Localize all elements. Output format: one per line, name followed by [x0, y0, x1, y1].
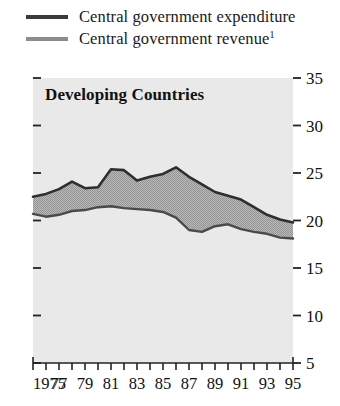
x-axis-label: 79 — [77, 374, 94, 393]
x-axis-label: 87 — [181, 374, 198, 393]
legend-item-revenue: Central government revenue1 — [0, 28, 340, 50]
chart-plot-area: Developing Countries 5101520253035 19757… — [0, 60, 340, 406]
x-axis-label: 81 — [103, 374, 120, 393]
chart-legend: Central government expenditure Central g… — [0, 6, 340, 50]
x-axis-label: 93 — [259, 374, 276, 393]
legend-label-expenditure: Central government expenditure — [79, 8, 296, 26]
y-axis-labels: 5101520253035 — [306, 69, 323, 373]
y-axis-label: 10 — [306, 307, 323, 326]
legend-footnote-marker: 1 — [269, 29, 274, 40]
y-axis-ticks-right — [293, 78, 301, 363]
y-axis-label: 30 — [306, 117, 323, 136]
y-axis-label: 35 — [306, 69, 323, 88]
x-axis-label: 95 — [285, 374, 302, 393]
legend-label-revenue-text: Central government revenue — [79, 29, 269, 48]
x-axis-labels: 197577798183858789919395 — [33, 374, 301, 393]
legend-line-expenditure-icon — [26, 15, 68, 19]
x-axis-label: 83 — [129, 374, 146, 393]
x-axis-label: 85 — [155, 374, 172, 393]
x-axis-ticks — [33, 363, 293, 370]
legend-item-expenditure: Central government expenditure — [0, 6, 340, 28]
x-axis-label: 77 — [51, 374, 68, 393]
y-axis-label: 15 — [306, 259, 323, 278]
chart-figure: Central government expenditure Central g… — [0, 0, 340, 406]
panel-title: Developing Countries — [45, 85, 205, 104]
x-axis-label: 89 — [207, 374, 224, 393]
y-axis-label: 20 — [306, 212, 323, 231]
y-axis-label: 5 — [306, 354, 315, 373]
legend-line-revenue-icon — [26, 37, 68, 41]
y-axis-label: 25 — [306, 164, 323, 183]
legend-label-revenue: Central government revenue1 — [79, 30, 275, 48]
chart-svg: Developing Countries 5101520253035 19757… — [0, 60, 340, 406]
x-axis-label: 91 — [233, 374, 250, 393]
